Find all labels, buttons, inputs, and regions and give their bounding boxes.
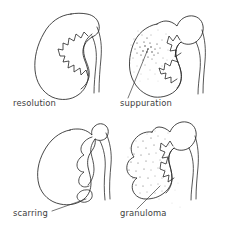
ureter-inner-resolution bbox=[92, 36, 96, 93]
kidney-outline-resolution bbox=[35, 13, 99, 99]
ureter-inner-granuloma bbox=[189, 148, 193, 200]
panel-label-scarring: scarring bbox=[13, 208, 48, 218]
lower-calyces-suppuration bbox=[159, 60, 178, 83]
kidney-outline-suppuration bbox=[129, 16, 203, 97]
panel-label-granuloma: granuloma bbox=[120, 208, 167, 218]
kidney-outline-scarring bbox=[38, 124, 109, 205]
ureter-inner-scarring bbox=[100, 141, 105, 200]
panel-label-resolution: resolution bbox=[13, 98, 56, 108]
leader-line-scarring bbox=[52, 199, 86, 211]
panel-label-suppuration: suppuration bbox=[120, 98, 172, 108]
leader-line-suppuration bbox=[128, 49, 148, 98]
ureter-outer-suppuration bbox=[202, 30, 205, 93]
blunted-calyces-scarring bbox=[77, 137, 92, 187]
diffuse-stipple-granuloma bbox=[128, 131, 181, 208]
ureter-inner-suppuration bbox=[196, 42, 200, 94]
kidney-outline-granuloma bbox=[127, 122, 196, 199]
calyces-suppuration bbox=[167, 35, 181, 57]
ureter-outer-scarring bbox=[106, 133, 111, 199]
kidney-outcomes-figure: resolution bbox=[0, 0, 228, 232]
ureter-outer-resolution bbox=[97, 27, 101, 92]
panel-suppuration: suppuration bbox=[120, 16, 205, 108]
panel-scarring: scarring bbox=[13, 124, 111, 218]
panel-granuloma: granuloma bbox=[120, 122, 198, 218]
ureter-outer-granuloma bbox=[195, 136, 198, 199]
panel-resolution: resolution bbox=[13, 13, 101, 108]
